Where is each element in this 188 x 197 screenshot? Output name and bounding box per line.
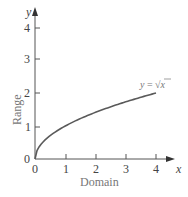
- sqrt-curve: [35, 93, 156, 159]
- x-tick-label-1: 1: [63, 162, 69, 176]
- chart-canvas: 0 1 2 3 4 0 1 2 3 4 y x Domain Range y =…: [0, 0, 188, 197]
- x-tick-label-4: 4: [153, 162, 159, 176]
- y-tick-label-4: 4: [24, 21, 30, 35]
- x-tick-label-0: 0: [32, 162, 38, 176]
- y-tick-label-3: 3: [24, 52, 30, 66]
- y-tick-label-0: 0: [24, 152, 30, 166]
- x-tick-label-2: 2: [93, 162, 99, 176]
- y-axis-title: Range: [10, 94, 24, 125]
- y-tick-label-1: 1: [25, 120, 31, 134]
- y-tick-label-2: 2: [24, 86, 30, 100]
- x-variable-label: x: [175, 162, 182, 176]
- x-axis-title: Domain: [80, 175, 119, 189]
- x-tick-label-3: 3: [123, 162, 129, 176]
- x-axis-arrow-icon: [166, 156, 175, 162]
- curve-label-x: x: [160, 79, 166, 90]
- y-axis-arrow-icon: [32, 7, 38, 16]
- curve-label: y = √x: [139, 79, 166, 90]
- curve-label-equals: =: [144, 79, 155, 90]
- y-variable-label: y: [25, 5, 32, 19]
